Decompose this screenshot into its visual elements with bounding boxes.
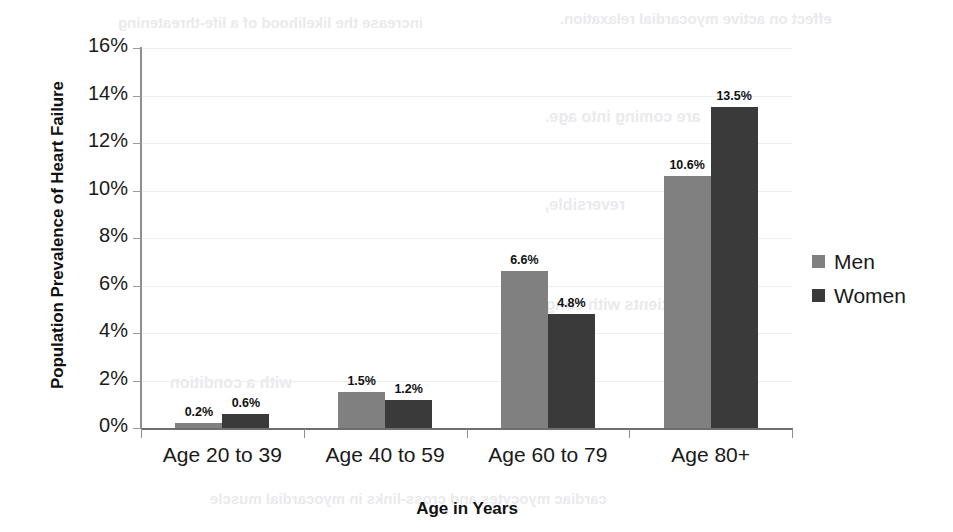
bar-value-label: 0.6%	[210, 396, 281, 410]
y-tick-mark	[133, 238, 141, 239]
gridline	[141, 143, 792, 144]
y-tick-mark	[133, 143, 141, 144]
y-tick-label: 8%	[58, 224, 128, 247]
bar-value-label: 4.8%	[536, 296, 607, 310]
y-tick-mark	[133, 333, 141, 334]
y-tick-label: 0%	[58, 414, 128, 437]
x-axis-title: Age in Years	[141, 499, 793, 519]
y-tick-mark	[133, 286, 141, 287]
y-tick-label: 12%	[58, 129, 128, 152]
y-tick-mark	[133, 191, 141, 192]
x-tick-mark	[792, 429, 793, 438]
bar-women-age-80	[711, 107, 758, 428]
y-tick-label: 16%	[58, 34, 128, 57]
x-tick-mark	[629, 429, 630, 438]
x-tick-label: Age 20 to 39	[141, 443, 304, 467]
heart-failure-prevalence-chart: increase the likelihood of a life-threat…	[0, 0, 953, 532]
y-tick-mark	[133, 381, 141, 382]
legend-label: Men	[834, 251, 875, 272]
gridline	[141, 48, 792, 49]
y-tick-label: 2%	[58, 367, 128, 390]
x-tick-label: Age 40 to 59	[304, 443, 467, 467]
bleed-text: effect on active myocardial relaxation.	[560, 10, 832, 27]
bar-value-label: 6.6%	[489, 253, 560, 267]
plot-area: 0.2%0.6%1.5%1.2%6.6%4.8%10.6%13.5%	[141, 48, 792, 428]
y-tick-label: 6%	[58, 272, 128, 295]
legend-item-women: Women	[812, 278, 906, 312]
x-tick-mark	[141, 429, 142, 438]
legend-label: Women	[834, 285, 906, 306]
y-tick-mark	[133, 96, 141, 97]
x-tick-mark	[304, 429, 305, 438]
bar-value-label: 13.5%	[699, 89, 770, 103]
y-tick-label: 10%	[58, 177, 128, 200]
y-tick-label: 4%	[58, 319, 128, 342]
x-tick-label: Age 80+	[629, 443, 792, 467]
x-tick-label: Age 60 to 79	[467, 443, 630, 467]
bar-women-age-60-to-79	[548, 314, 595, 428]
gridline	[141, 96, 792, 97]
legend-swatch-icon	[812, 289, 825, 302]
bar-value-label: 1.2%	[373, 382, 444, 396]
chart-legend: MenWomen	[812, 244, 906, 312]
y-tick-mark	[133, 48, 141, 49]
bar-women-age-20-to-39	[222, 414, 269, 428]
bar-men-age-40-to-59	[338, 392, 385, 428]
y-tick-label: 14%	[58, 82, 128, 105]
bleed-text: increase the likelihood of a life-threat…	[118, 14, 423, 31]
legend-swatch-icon	[812, 255, 825, 268]
bar-men-age-60-to-79	[501, 271, 548, 428]
bar-women-age-40-to-59	[385, 400, 432, 429]
x-tick-mark	[467, 429, 468, 438]
y-tick-mark	[133, 428, 141, 429]
legend-item-men: Men	[812, 244, 906, 278]
bar-men-age-80	[664, 176, 711, 428]
